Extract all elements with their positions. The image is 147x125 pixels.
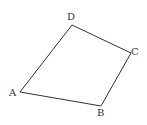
edge-da (20, 25, 72, 92)
vertex-label-a: A (8, 87, 17, 98)
edge-ab (20, 92, 101, 106)
vertex-label-c: C (131, 46, 139, 57)
quadrilateral-diagram: A B C D (0, 0, 147, 125)
edge-cd (72, 25, 131, 53)
edge-bc (101, 53, 131, 106)
vertex-label-b: B (97, 107, 104, 118)
vertex-label-d: D (67, 11, 75, 22)
